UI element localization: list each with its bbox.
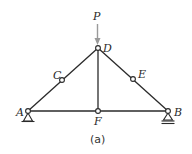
roller-support-icon (162, 113, 175, 124)
joint-B (166, 109, 171, 114)
joint-A (26, 109, 31, 114)
node-label-C: C (53, 69, 62, 82)
joint-D (96, 46, 101, 51)
joint-F (96, 109, 101, 114)
joint-E (131, 77, 136, 82)
load-arrow-icon (95, 24, 101, 45)
figure-caption: (a) (90, 133, 105, 146)
truss-diagram: P A C D E B F (a) (0, 0, 192, 154)
node-label-B: B (173, 106, 182, 119)
node-label-D: D (102, 42, 112, 55)
node-label-A: A (15, 106, 24, 119)
node-label-E: E (137, 68, 146, 81)
truss-members (28, 48, 168, 111)
node-label-F: F (93, 115, 102, 128)
load-label-P: P (92, 10, 101, 23)
